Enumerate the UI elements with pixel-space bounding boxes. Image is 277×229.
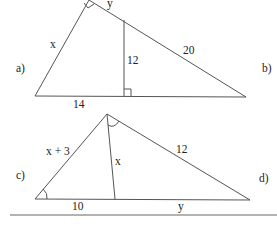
triangle-ab-outline (35, 0, 246, 97)
base-label-y: y (178, 200, 184, 213)
base-label-14: 14 (73, 98, 85, 110)
triangle-ab (35, 0, 246, 97)
triangle-cd (35, 114, 250, 200)
side-label-x-plus-3: x + 3 (46, 145, 70, 157)
triangle-cd-outline (35, 114, 250, 200)
base-label-10: 10 (72, 200, 84, 212)
side-label-12: 12 (176, 143, 188, 155)
right-angle-marker-top (84, 3, 94, 8)
geometry-figure: a) b) x y 20 12 14 c) d) x + 3 x 12 10 y (0, 0, 277, 229)
part-label-b: b) (262, 62, 272, 75)
cevian-label-x: x (115, 155, 121, 167)
right-angle-marker-bottom (124, 89, 131, 96)
side-label-y: y (107, 0, 113, 10)
angle-arc-left (43, 189, 47, 199)
side-label-x: x (50, 38, 56, 50)
angle-arc-apex (108, 121, 119, 126)
part-label-c: c) (16, 169, 25, 182)
altitude-label-12: 12 (127, 54, 139, 66)
hypotenuse-label-20: 20 (183, 44, 195, 56)
part-label-a: a) (16, 62, 25, 75)
part-label-d: d) (259, 172, 269, 185)
